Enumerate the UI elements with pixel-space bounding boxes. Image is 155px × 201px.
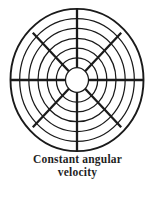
caption-line-2: velocity <box>0 166 155 179</box>
caption-line-1: Constant angular <box>0 153 155 166</box>
figure-caption: Constant angular velocity <box>0 153 155 179</box>
constant-angular-velocity-wheel-diagram <box>0 0 155 153</box>
figure-page: Constant angular velocity <box>0 0 155 201</box>
hub-ring <box>66 68 89 93</box>
